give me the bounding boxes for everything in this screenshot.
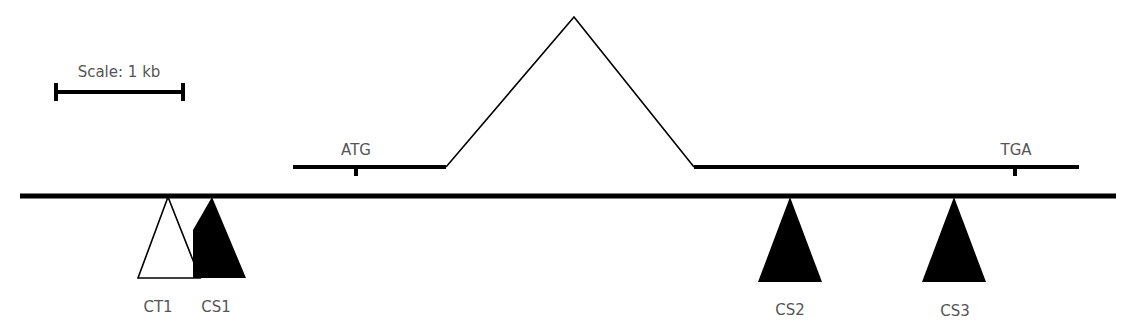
scale-label: Scale: 1 kb [78, 63, 161, 81]
gene-diagram: Scale: 1 kb ATG TGA CT1 CS1 CS2 CS3 [0, 0, 1132, 329]
label-cs1: CS1 [201, 298, 231, 316]
label-cs2: CS2 [775, 301, 805, 319]
label-cs3: CS3 [940, 302, 970, 320]
filled-triangle-icon [193, 197, 246, 278]
insertion-cs1 [193, 197, 246, 278]
filled-triangle-icon [758, 197, 822, 282]
gene-model: ATG TGA [293, 17, 1079, 176]
atg-label: ATG [341, 141, 371, 159]
insertion-cs3 [922, 197, 986, 282]
scale-bar: Scale: 1 kb [55, 63, 184, 101]
insertion-ct1 [138, 197, 200, 278]
intron [446, 17, 694, 167]
filled-triangle-icon [922, 197, 986, 282]
insertion-cs2 [758, 197, 822, 282]
label-ct1: CT1 [143, 298, 172, 316]
tga-label: TGA [999, 141, 1032, 159]
open-triangle-icon [138, 197, 200, 278]
